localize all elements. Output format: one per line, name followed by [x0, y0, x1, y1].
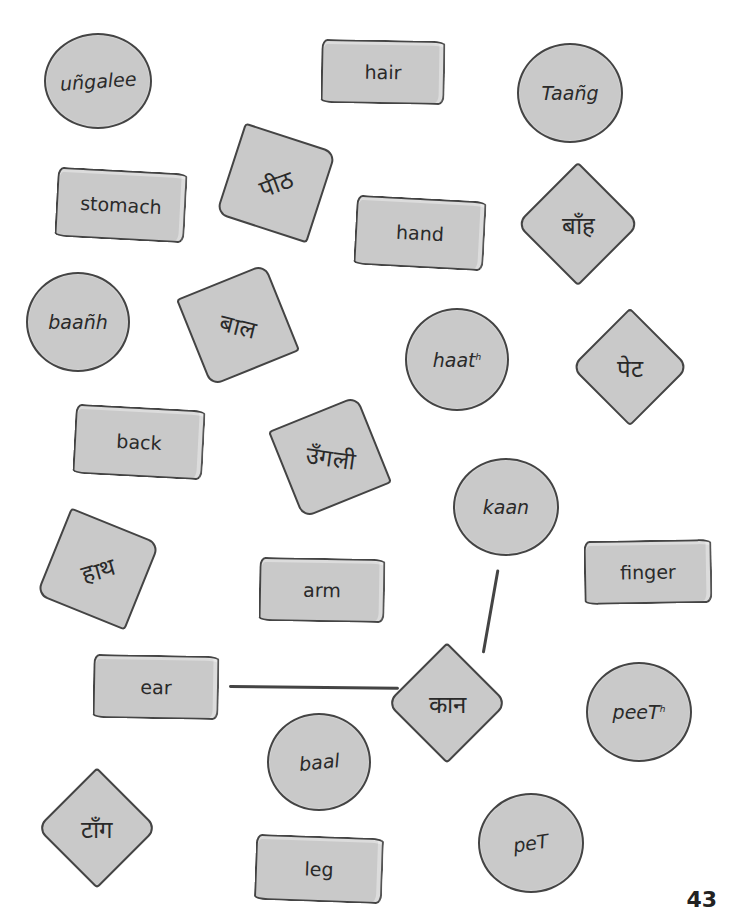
card-label: finger: [620, 561, 676, 584]
card-label: उँगली: [303, 437, 356, 476]
card-label: ear: [140, 676, 172, 699]
card-taang-translit[interactable]: Taañg: [517, 43, 623, 143]
card-label: hair: [364, 61, 401, 84]
card-label-sup: h: [660, 704, 666, 714]
card-label: टाँग: [81, 812, 113, 845]
card-finger[interactable]: finger: [583, 539, 712, 605]
card-label: baañh: [48, 311, 107, 333]
card-ungli-hindi[interactable]: उँगली: [268, 395, 392, 518]
card-pet-hindi[interactable]: पेट: [571, 308, 690, 427]
card-label: hand: [396, 221, 445, 245]
card-label-text: haat: [433, 349, 476, 371]
connection-line-kaan-kaan: [482, 569, 500, 653]
card-peeth-translit[interactable]: peeTh: [586, 662, 692, 762]
connection-line-ear-kaan: [229, 685, 399, 690]
card-pet-translit[interactable]: peT: [478, 793, 584, 893]
card-label-sup: h: [476, 351, 482, 361]
card-label: back: [116, 430, 162, 454]
card-label: kaan: [483, 496, 529, 518]
page-number: 43: [686, 887, 717, 912]
card-ungalee[interactable]: uñgalee: [44, 33, 152, 129]
card-peeth-hindi[interactable]: पीठ: [216, 123, 337, 244]
card-kaan-translit[interactable]: kaan: [453, 458, 559, 556]
card-label: हाथ: [77, 548, 119, 589]
card-label: पेट: [617, 351, 643, 384]
card-label: stomach: [80, 192, 163, 218]
card-back[interactable]: back: [72, 404, 205, 481]
card-ear[interactable]: ear: [92, 654, 219, 720]
card-label: haath: [433, 349, 482, 371]
card-label: बाँह: [562, 208, 595, 241]
card-baal-translit[interactable]: baal: [267, 713, 371, 811]
card-label: peT: [512, 830, 550, 857]
card-label: uñgalee: [59, 67, 137, 94]
card-kaan-hindi[interactable]: कान: [386, 642, 508, 764]
card-label: कान: [429, 687, 466, 720]
card-baanh-hindi[interactable]: बाँह: [516, 162, 640, 286]
card-label: arm: [303, 579, 341, 602]
card-leg[interactable]: leg: [254, 834, 384, 904]
card-hair[interactable]: hair: [320, 39, 445, 105]
card-arm[interactable]: arm: [258, 557, 385, 623]
card-label: baal: [298, 749, 341, 775]
card-stomach[interactable]: stomach: [54, 167, 187, 244]
card-label: peeTh: [613, 701, 666, 723]
card-baal-hindi[interactable]: बाल: [176, 263, 300, 386]
card-label: leg: [304, 858, 334, 881]
card-label-text: peeT: [613, 701, 660, 723]
card-baanh-translit[interactable]: baañh: [26, 272, 130, 372]
card-label: बाल: [217, 305, 260, 346]
card-label: Taañg: [542, 82, 599, 104]
card-taang-hindi[interactable]: टाँग: [36, 767, 158, 889]
card-haath-hindi[interactable]: हाथ: [36, 507, 160, 630]
card-label: पीठ: [254, 162, 297, 205]
card-hand[interactable]: hand: [353, 195, 486, 272]
card-haath-translit[interactable]: haath: [405, 308, 509, 411]
